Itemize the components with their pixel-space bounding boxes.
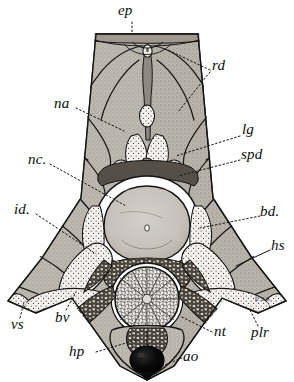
label-nt: nt — [214, 324, 226, 339]
label-rd: rd — [212, 58, 225, 73]
label-spd: spd — [241, 147, 262, 162]
artist-signature: E.S.G. — [255, 296, 272, 302]
label-hs: hs — [271, 238, 285, 253]
notochord-center-dot — [145, 225, 150, 231]
label-bv: bv — [55, 310, 70, 325]
figure-plate: ep rd na lg spd nc. id. bd. hs vs bv hp … — [0, 0, 294, 382]
label-ep: ep — [118, 3, 133, 18]
label-bd: bd. — [260, 204, 279, 219]
label-vs: vs — [11, 317, 24, 332]
label-id: id. — [14, 202, 30, 217]
subnotochordal-rod — [111, 263, 183, 335]
label-nc: nc. — [28, 152, 47, 167]
label-ao: ao — [183, 349, 198, 364]
label-na: na — [54, 96, 69, 111]
label-lg: lg — [242, 122, 254, 137]
label-plr: plr — [251, 325, 269, 340]
anatomical-section-drawing — [0, 0, 294, 382]
dorsal-aorta — [130, 346, 164, 381]
label-hp: hp — [69, 344, 84, 359]
